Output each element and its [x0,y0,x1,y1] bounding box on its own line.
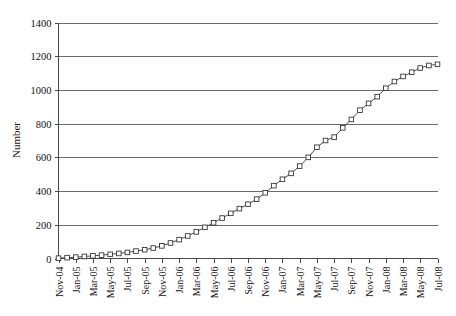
data-point-marker [272,183,277,188]
x-tick-label: Jan-05 [71,267,82,294]
data-point-marker [409,70,414,75]
data-point-marker [160,244,165,249]
data-point-marker [246,202,251,207]
x-tick-label: Jul-05 [122,267,133,292]
x-tick-label: May-06 [209,267,220,299]
chart-container: 0200400600800100012001400 Nov-04Jan-05Ma… [0,0,456,316]
data-point-marker [168,241,173,246]
data-point-marker [142,247,147,252]
data-point-marker [237,206,242,211]
data-point-marker [401,74,406,79]
data-point-marker [349,117,354,122]
data-point-marker [418,66,423,71]
data-point-marker [358,108,363,113]
x-tick-label: Mar-05 [88,267,99,297]
x-tick-label: Jan-06 [174,267,185,294]
data-point-marker [366,101,371,106]
data-point-marker [340,126,345,131]
data-point-marker [185,234,190,239]
data-point-marker [177,237,182,242]
y-axis-label: Number [10,122,22,158]
data-point-marker [254,197,259,202]
x-tick-label: Jul-07 [329,267,340,292]
data-point-marker [306,155,311,160]
x-tick-label: Nov-06 [260,267,271,298]
data-point-marker [211,220,216,225]
x-tick-label: Jan-08 [381,267,392,294]
y-tick-label: 1200 [31,51,52,62]
x-tick-label: Sep-07 [346,267,357,295]
data-point-marker [117,251,122,256]
x-tick-label: Mar-07 [295,267,306,297]
data-point-marker [375,94,380,99]
data-point-marker [65,255,70,260]
y-tick-label: 0 [46,254,51,265]
x-tick-label: Mar-06 [191,267,202,297]
data-point-marker [73,255,78,260]
data-point-marker [427,63,432,68]
x-tick-label: Sep-05 [140,267,151,295]
x-tick-label: May-08 [415,267,426,299]
data-point-marker [56,256,61,261]
data-point-marker [99,253,104,258]
data-point-marker [220,216,225,221]
x-tick-label: May-05 [105,267,116,299]
data-point-marker [108,252,113,257]
y-tick-label: 600 [36,152,52,163]
data-point-marker [263,190,268,195]
data-point-marker [82,254,87,259]
line-chart: 0200400600800100012001400 Nov-04Jan-05Ma… [0,0,456,316]
data-point-marker [280,177,285,182]
data-point-marker [194,230,199,235]
x-tick-label: Jan-07 [277,267,288,294]
data-point-marker [297,164,302,169]
data-point-marker [323,138,328,143]
data-point-marker [203,225,208,230]
data-point-marker [289,171,294,176]
x-tick-label: Sep-06 [243,267,254,295]
data-point-marker [315,145,320,150]
y-tick-label: 1400 [31,18,52,29]
data-point-marker [384,86,389,91]
data-point-marker [91,254,96,259]
data-point-marker [151,246,156,251]
data-point-marker [435,62,440,67]
x-tick-label: Jul-06 [226,267,237,292]
x-tick-label: Nov-07 [364,267,375,298]
data-point-marker [392,79,397,84]
y-tick-label: 800 [36,119,52,130]
x-tick-label: May-07 [312,267,323,299]
data-point-marker [228,211,233,216]
x-tick-label: Nov-05 [157,267,168,298]
x-tick-label: Jul-08 [433,267,444,292]
y-tick-label: 400 [36,186,52,197]
x-tick-label: Mar-08 [398,267,409,297]
data-point-marker [125,250,130,255]
data-point-marker [134,249,139,254]
y-tick-label: 200 [36,220,52,231]
x-tick-label: Nov-04 [54,267,65,298]
x-tick-labels: Nov-04Jan-05Mar-05May-05Jul-05Sep-05Nov-… [54,267,444,299]
y-tick-label: 1000 [31,85,52,96]
data-point-marker [332,135,337,140]
